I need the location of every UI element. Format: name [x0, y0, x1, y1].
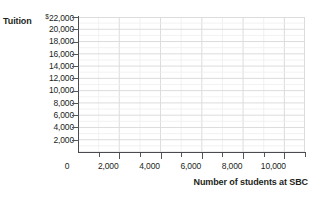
y-axis-tick-label: 20,000: [30, 25, 74, 34]
y-axis-tick: [72, 91, 79, 92]
y-axis-ticks: [71, 17, 79, 153]
y-axis-tick-label: 6,000: [30, 111, 74, 120]
x-axis-tick: [264, 153, 265, 157]
y-axis-tick-label: $22,000: [30, 13, 74, 23]
y-axis-tick: [72, 78, 79, 79]
y-axis-tick-label: 2,000: [30, 136, 74, 145]
y-axis-tick: [72, 103, 79, 104]
y-axis-tick-label: 18,000: [30, 37, 74, 46]
x-axis-tick: [140, 153, 141, 157]
currency-symbol: $: [45, 13, 49, 20]
y-axis-tick-label: 4,000: [30, 123, 74, 132]
x-axis-tick-labels: 02,0004,0006,0008,00010,000: [0, 161, 320, 175]
y-axis-tick: [72, 17, 79, 18]
grid-lines: [78, 17, 305, 152]
y-axis-tick: [72, 127, 79, 128]
plot-area: [78, 17, 305, 152]
x-axis-tick: [181, 153, 182, 157]
x-axis-tick: [202, 153, 203, 159]
y-axis-tick: [72, 140, 79, 141]
y-axis-tick-label: 8,000: [30, 99, 74, 108]
tuition-vs-students-chart: Tuition $22,00020,00018,00016,00014,0001…: [0, 0, 320, 200]
x-axis-tick-label: 0: [65, 161, 70, 171]
y-axis-tick-label: 12,000: [30, 74, 74, 83]
y-axis-tick-label: 14,000: [30, 62, 74, 71]
x-axis-tick: [284, 153, 285, 159]
x-axis-tick-label: 10,000: [261, 161, 286, 171]
x-axis-tick-label: 4,000: [139, 161, 160, 171]
y-axis-tick: [72, 29, 79, 30]
y-axis-tick-labels: $22,00020,00018,00016,00014,00012,00010,…: [30, 17, 74, 152]
x-axis-tick: [119, 153, 120, 159]
x-axis-tick: [161, 153, 162, 159]
x-axis-ticks: [78, 153, 306, 161]
y-axis-tick-label: 16,000: [30, 50, 74, 59]
y-axis-tick: [72, 115, 79, 116]
y-axis-title: Tuition: [3, 16, 32, 26]
x-axis-tick: [305, 153, 306, 157]
x-axis-tick: [243, 153, 244, 159]
y-axis-tick: [72, 42, 79, 43]
x-axis-tick-label: 2,000: [98, 161, 119, 171]
y-axis-tick: [72, 54, 79, 55]
x-axis-tick: [99, 153, 100, 157]
y-axis-tick-label: 10,000: [30, 86, 74, 95]
x-axis-tick-label: 6,000: [181, 161, 202, 171]
x-axis-title: Number of students at SBC: [193, 177, 308, 187]
x-axis-tick-label: 8,000: [222, 161, 243, 171]
y-axis-tick: [72, 66, 79, 67]
x-axis-tick: [222, 153, 223, 157]
